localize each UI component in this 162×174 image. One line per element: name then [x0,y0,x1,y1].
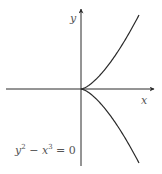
curve-lower-branch [81,89,139,163]
curve-upper-branch [81,15,139,89]
equation-label: y2 − x3 = 0 [15,144,76,156]
y-axis-label: y [70,13,76,24]
x-axis-label: x [141,95,147,106]
equation-operator: − [26,144,42,157]
equation-rhs: = 0 [53,144,76,157]
